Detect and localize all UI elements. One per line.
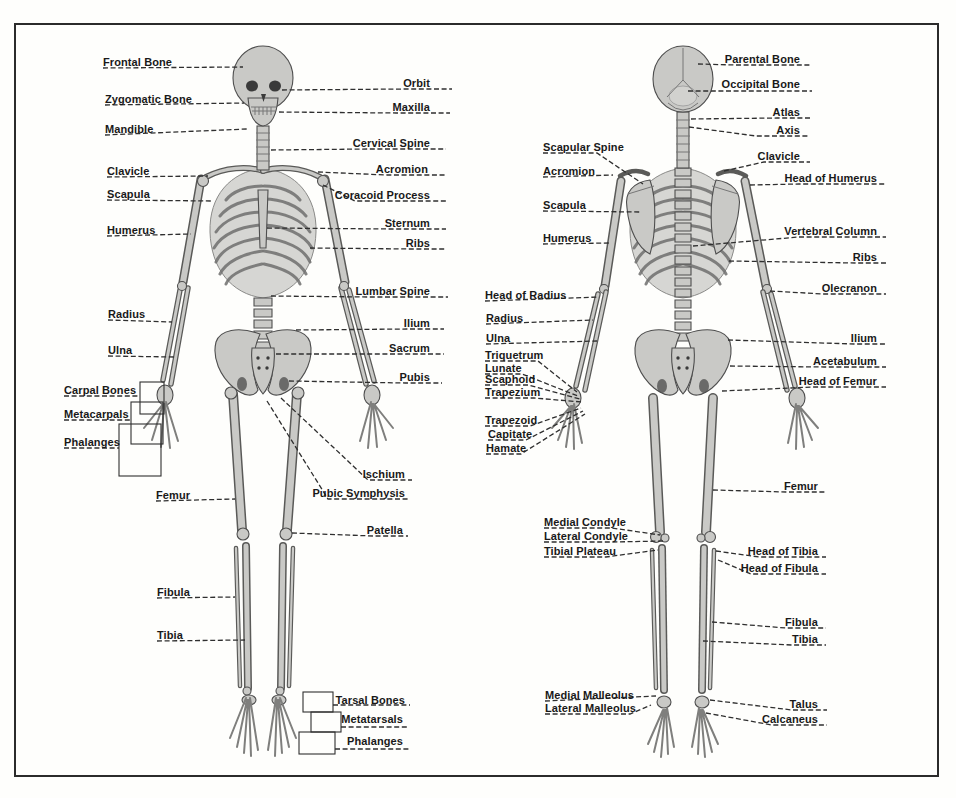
label-atlas: Atlas xyxy=(773,106,800,118)
label-lumbar-spine: Lumbar Spine xyxy=(355,285,430,297)
label-scapula-post: Scapula xyxy=(543,199,586,211)
label-tibial-plateau: Tibial Plateau xyxy=(544,545,616,557)
label-talus: Talus xyxy=(790,698,818,710)
label-olecranon: Olecranon xyxy=(822,282,877,294)
anterior-skeleton-art xyxy=(144,46,393,756)
label-phalanges-foot: Phalanges xyxy=(347,735,403,747)
label-lateral-condyle: Lateral Condyle xyxy=(544,530,628,542)
label-femur-post: Femur xyxy=(784,480,818,492)
label-carpal-bones: Carpal Bones xyxy=(64,384,136,396)
label-phalanges-hand: Phalanges xyxy=(64,436,120,448)
label-clavicle-post: Clavicle xyxy=(758,150,800,162)
label-sternum: Sternum xyxy=(385,217,430,229)
label-scaphoid: Scaphoid xyxy=(485,373,535,385)
label-zygomatic-bone: Zygomatic Bone xyxy=(105,93,192,105)
label-fibula-ant: Fibula xyxy=(157,586,190,598)
anterior-pelvis xyxy=(215,330,311,395)
label-axis: Axis xyxy=(776,124,800,136)
anterior-skull xyxy=(233,46,293,126)
label-trapezoid: Trapezoid xyxy=(485,414,537,426)
anterior-hands xyxy=(144,385,393,448)
posterior-skull xyxy=(653,46,713,112)
label-pubic-symphysis: Pubic Symphysis xyxy=(312,487,405,499)
label-tarsal-bones: Tarsal Bones xyxy=(336,694,405,706)
label-parental-bone: Parental Bone xyxy=(725,53,800,65)
label-scapular-spine: Scapular Spine xyxy=(543,141,624,153)
label-head-of-fibula: Head of Fibula xyxy=(741,562,818,574)
diagram-art xyxy=(0,0,956,798)
posterior-neck xyxy=(676,112,690,168)
label-triquetrum: Triquetrum xyxy=(485,349,543,361)
label-radius-ant: Radius xyxy=(108,308,145,320)
label-ulna-ant: Ulna xyxy=(108,344,132,356)
label-vertebral-column: Vertebral Column xyxy=(784,225,877,237)
anterior-legs xyxy=(225,387,304,695)
label-maxilla: Maxilla xyxy=(393,101,430,113)
label-humerus-ant: Humerus xyxy=(107,224,155,236)
label-hamate: Hamate xyxy=(486,442,526,454)
skeleton-diagram-page: Frontal Bone Zygomatic Bone Mandible Cla… xyxy=(0,0,956,798)
label-humerus-post: Humerus xyxy=(543,232,591,244)
label-fibula-post: Fibula xyxy=(785,616,818,628)
label-coracoid-process: Coracoid Process xyxy=(335,189,430,201)
label-calcaneus: Calcaneus xyxy=(762,713,818,725)
label-metacarpals: Metacarpals xyxy=(64,408,129,420)
label-metatarsals: Metatarsals xyxy=(341,713,403,725)
label-ilium-post: Ilium xyxy=(851,332,877,344)
label-clavicle-ant: Clavicle xyxy=(107,165,149,177)
label-patella: Patella xyxy=(367,524,403,536)
label-frontal-bone: Frontal Bone xyxy=(103,56,172,68)
label-ilium-ant: Ilium xyxy=(404,317,430,329)
anterior-neck xyxy=(256,126,270,170)
label-ulna-post: Ulna xyxy=(486,332,510,344)
label-medial-condyle: Medial Condyle xyxy=(544,516,626,528)
label-ribs-ant: Ribs xyxy=(406,237,430,249)
label-scapula-ant: Scapula xyxy=(107,188,150,200)
label-radius-post: Radius xyxy=(486,312,523,324)
label-tibia-ant: Tibia xyxy=(157,629,183,641)
label-ribs-post: Ribs xyxy=(853,251,877,263)
label-sacrum: Sacrum xyxy=(389,342,430,354)
label-orbit: Orbit xyxy=(403,77,430,89)
label-head-of-femur: Head of Femur xyxy=(799,375,877,387)
label-acetabulum: Acetabulum xyxy=(813,355,877,367)
label-trapezium: Trapezium xyxy=(485,386,540,398)
label-tibia-post: Tibia xyxy=(792,633,818,645)
label-head-of-tibia: Head of Tibia xyxy=(748,545,818,557)
anterior-feet xyxy=(230,695,296,756)
posterior-legs xyxy=(651,398,716,690)
label-ischium: Ischium xyxy=(363,468,405,480)
posterior-feet xyxy=(648,696,718,757)
label-occipital-bone: Occipital Bone xyxy=(722,78,800,90)
label-capitate: Capitate xyxy=(488,428,532,440)
label-lateral-malleolus: Lateral Malleolus xyxy=(545,702,636,714)
label-acromion-post: Acromion xyxy=(543,165,595,177)
label-acromion-ant: Acromion xyxy=(376,163,428,175)
posterior-hands xyxy=(552,388,818,449)
label-medial-malleolus: Medial Malleolus xyxy=(545,689,634,701)
label-femur-ant: Femur xyxy=(156,489,190,501)
label-cervical-spine: Cervical Spine xyxy=(353,137,430,149)
label-pubis: Pubis xyxy=(400,371,430,383)
anterior-ribcage xyxy=(210,168,316,298)
label-mandible: Mandible xyxy=(105,123,153,135)
label-head-of-radius: Head of Radius xyxy=(485,289,566,301)
label-head-of-humerus: Head of Humerus xyxy=(784,172,877,184)
